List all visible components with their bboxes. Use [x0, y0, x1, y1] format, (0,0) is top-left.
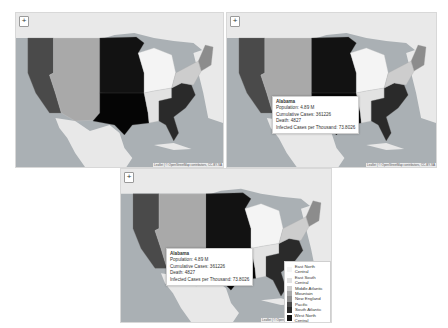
region-legend: East North CentralEast South CentralMidd… [284, 261, 331, 323]
region-west-north-central [100, 37, 144, 95]
legend-swatch [287, 315, 292, 320]
region-west-north-central [312, 37, 357, 95]
legend-label: East North Central [295, 264, 328, 275]
map-attribution[interactable]: Leaflet | © OpenStreetMap contributors, … [153, 163, 223, 167]
popup-infected-per-thousand: Infected Cases per Thousand: 73.8026 [170, 277, 249, 283]
legend-swatch [287, 307, 292, 312]
zoom-in-button[interactable]: + [230, 16, 240, 27]
legend-item: East North Central [287, 264, 328, 275]
legend-item: East South Central [287, 275, 328, 286]
map-panel[interactable]: +Leaflet | © OpenStreetMap contributors,… [226, 12, 437, 168]
map-attribution[interactable]: Leaflet | © OpenStreetMap contributors, … [366, 163, 436, 167]
choropleth-map[interactable] [227, 13, 436, 167]
zoom-in-button[interactable]: + [124, 172, 134, 183]
legend-item: West North Central [287, 313, 328, 323]
legend-swatch [287, 267, 292, 272]
state-info-popup: AlabamaPopulation: 4.89 MCumulative Case… [272, 96, 359, 134]
legend-label: West North Central [295, 313, 328, 323]
choropleth-map[interactable] [16, 13, 223, 167]
popup-infected-per-thousand: Infected Cases per Thousand: 73.8026 [276, 125, 355, 131]
map-panel[interactable]: +Leaflet | © OpenStreetMap contributors,… [15, 12, 224, 168]
state-info-popup: AlabamaPopulation: 4.89 MCumulative Case… [166, 248, 253, 286]
legend-label: East South Central [295, 275, 328, 286]
zoom-in-button[interactable]: + [19, 16, 29, 27]
legend-swatch [287, 278, 292, 283]
map-panel[interactable]: +Leaflet | © OpenStreetMap contributors,… [120, 168, 332, 323]
region-west-north-central [206, 193, 251, 251]
